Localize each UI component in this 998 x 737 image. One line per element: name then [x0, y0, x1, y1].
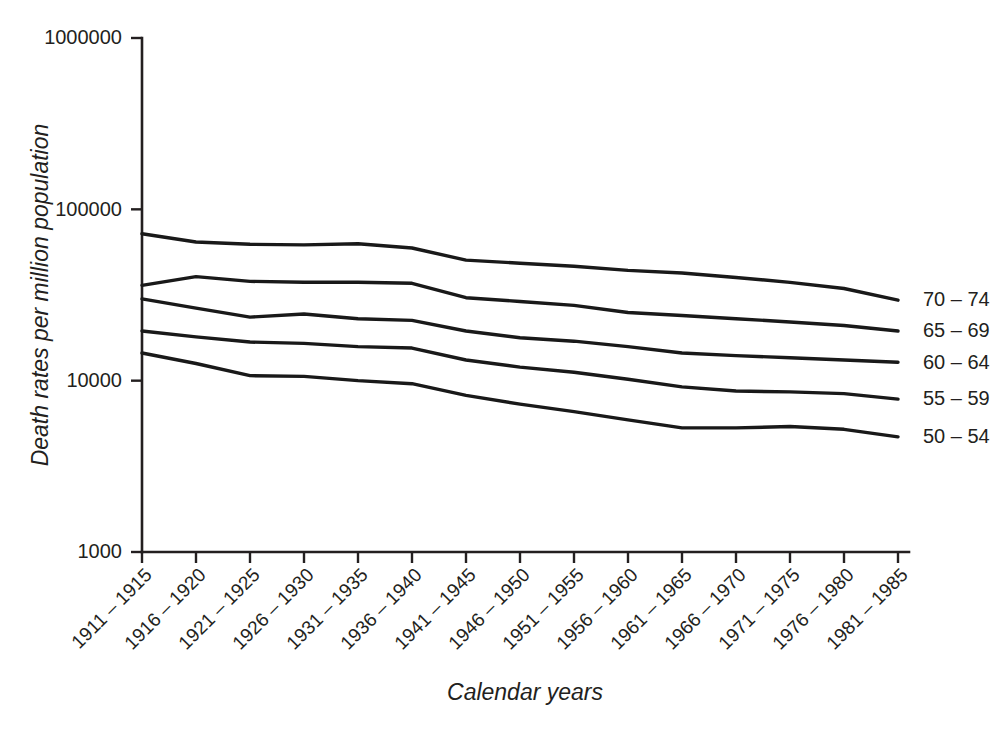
chart-container: 70 – 7465 – 6960 – 6455 – 5950 – 54 1000…	[0, 0, 998, 737]
y-axis-title: Death rates per million population	[27, 124, 53, 467]
series-line-7074	[142, 234, 898, 300]
series-line-6569	[142, 277, 898, 331]
series-label: 60 – 64	[923, 351, 990, 373]
series-label: 70 – 74	[923, 288, 990, 310]
y-tick-label: 1000	[78, 540, 123, 562]
series-labels-group: 70 – 7465 – 6960 – 6455 – 5950 – 54	[923, 288, 990, 447]
x-tick-labels-group: 1911 – 19151916 – 19201921 – 19251926 – …	[67, 564, 912, 654]
y-tick-label: 1000000	[44, 26, 122, 48]
y-axis-ticks	[131, 38, 142, 552]
series-line-6064	[142, 299, 898, 362]
series-label: 50 – 54	[923, 425, 990, 447]
y-tick-labels-group: 1000000100000100001000	[44, 26, 122, 562]
line-chart: 70 – 7465 – 6960 – 6455 – 5950 – 54 1000…	[0, 0, 998, 737]
series-label: 55 – 59	[923, 387, 990, 409]
data-series-group	[142, 234, 898, 437]
x-axis-title: Calendar years	[447, 679, 603, 705]
x-axis-ticks	[142, 552, 898, 563]
y-tick-label: 10000	[66, 369, 122, 391]
series-label: 65 – 69	[923, 319, 990, 341]
series-line-5559	[142, 331, 898, 399]
y-tick-label: 100000	[55, 198, 122, 220]
